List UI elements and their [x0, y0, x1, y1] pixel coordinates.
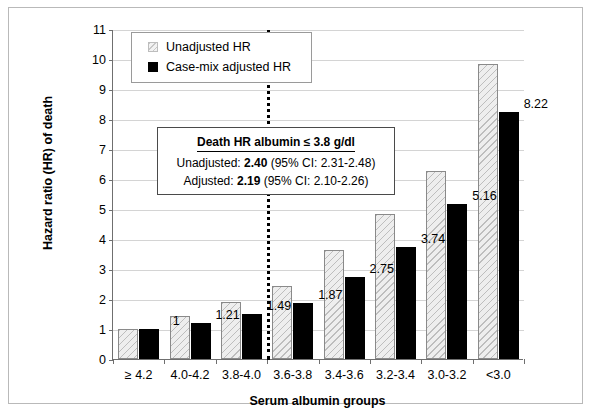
- y-tick-label: 4: [99, 233, 106, 247]
- y-tick-mark: [109, 240, 113, 241]
- x-tick-mark: [216, 359, 217, 364]
- annotation-callout-box: Death HR albumin ≤ 3.8 g/dl Unadjusted: …: [157, 127, 395, 195]
- x-tick-label: 3.0-3.2: [427, 368, 466, 382]
- y-tick-label: 8: [99, 113, 106, 127]
- bar-value-label: 2.75: [370, 262, 394, 276]
- bar-unadjusted: [324, 250, 344, 359]
- bar-value-label: 8.22: [524, 97, 548, 111]
- bar-adjusted: [242, 314, 262, 359]
- annotation-unadjusted-prefix: Unadjusted:: [177, 156, 244, 170]
- annotation-unadjusted-suffix: (95% CI: 2.31-2.48): [267, 156, 375, 170]
- y-tick-label: 2: [99, 293, 106, 307]
- y-tick-mark: [109, 120, 113, 121]
- y-tick-mark: [109, 60, 113, 61]
- y-tick-label: 0: [99, 353, 106, 367]
- y-tick-label: 7: [99, 143, 106, 157]
- bar-adjusted: [293, 303, 313, 359]
- legend-item-adjusted[interactable]: Case-mix adjusted HR: [138, 57, 305, 77]
- bar-unadjusted: [118, 329, 138, 359]
- x-tick-mark: [421, 359, 422, 364]
- annotation-adjusted-prefix: Adjusted:: [184, 174, 237, 188]
- y-tick-label: 5: [99, 203, 106, 217]
- bar-unadjusted: [478, 64, 498, 359]
- x-tick-label: 3.2-3.4: [376, 368, 415, 382]
- annotation-unadjusted-line: Unadjusted: 2.40 (95% CI: 2.31-2.48): [162, 156, 390, 170]
- legend-item-unadjusted[interactable]: Unadjusted HR: [138, 37, 305, 57]
- y-tick-mark: [109, 180, 113, 181]
- x-tick-label: <3.0: [486, 368, 511, 382]
- y-axis-title: Hazard ratio (HR) of death: [41, 48, 55, 298]
- bar-adjusted: [499, 112, 519, 359]
- y-tick-mark: [109, 30, 113, 31]
- bar-adjusted: [447, 204, 467, 359]
- x-tick-label: 3.4-3.6: [325, 368, 364, 382]
- x-axis-title: Serum albumin groups: [112, 394, 523, 408]
- x-tick-mark: [319, 359, 320, 364]
- y-gridline: [113, 30, 524, 31]
- y-tick-label: 1: [99, 323, 106, 337]
- x-tick-mark: [164, 359, 165, 364]
- y-tick-mark: [109, 270, 113, 271]
- bar-value-label: 3.74: [421, 232, 445, 246]
- y-gridline: [113, 90, 524, 91]
- y-tick-label: 10: [92, 53, 106, 67]
- bar-adjusted: [345, 277, 365, 360]
- annotation-adjusted-line: Adjusted: 2.19 (95% CI: 2.10-2.26): [162, 174, 390, 188]
- y-tick-mark: [109, 330, 113, 331]
- y-tick-label: 6: [99, 173, 106, 187]
- y-tick-label: 9: [99, 83, 106, 97]
- legend-label-unadjusted: Unadjusted HR: [166, 40, 251, 54]
- x-tick-mark: [370, 359, 371, 364]
- bar-value-label: 1.87: [318, 288, 342, 302]
- bar-adjusted: [396, 247, 416, 359]
- legend-label-adjusted: Case-mix adjusted HR: [166, 60, 291, 74]
- legend-swatch-adjusted-icon: [148, 62, 158, 72]
- x-tick-mark: [524, 359, 525, 364]
- bar-unadjusted: [272, 286, 292, 359]
- x-tick-label: 4.0-4.2: [171, 368, 210, 382]
- y-tick-label: 3: [99, 263, 106, 277]
- y-tick-mark: [109, 150, 113, 151]
- y-tick-mark: [109, 210, 113, 211]
- legend-swatch-unadjusted-icon: [148, 42, 158, 52]
- x-tick-mark: [473, 359, 474, 364]
- annotation-adjusted-suffix: (95% CI: 2.10-2.26): [260, 174, 368, 188]
- x-tick-label: ≥ 4.2: [125, 368, 153, 382]
- y-tick-mark: [109, 300, 113, 301]
- bar-value-label: 1: [173, 314, 180, 328]
- bar-value-label: 5.16: [472, 189, 496, 203]
- bar-value-label: 1.21: [215, 308, 239, 322]
- bar-unadjusted: [375, 214, 395, 359]
- bar-unadjusted: [426, 171, 446, 359]
- x-tick-label: 3.6-3.8: [273, 368, 312, 382]
- figure-frame: Hazard ratio (HR) of death 0123456789101…: [8, 7, 583, 404]
- x-tick-label: 3.8-4.0: [222, 368, 261, 382]
- y-tick-label: 11: [93, 23, 106, 37]
- x-tick-mark: [113, 359, 114, 364]
- bar-value-label: 1.49: [267, 299, 291, 313]
- bar-adjusted: [139, 329, 159, 359]
- y-tick-mark: [109, 90, 113, 91]
- y-gridline: [113, 120, 524, 121]
- chart-legend: Unadjusted HR Case-mix adjusted HR: [131, 32, 312, 83]
- annotation-title: Death HR albumin ≤ 3.8 g/dl: [197, 134, 355, 152]
- bar-adjusted: [191, 323, 211, 359]
- annotation-adjusted-value: 2.19: [237, 174, 260, 188]
- annotation-unadjusted-value: 2.40: [244, 156, 267, 170]
